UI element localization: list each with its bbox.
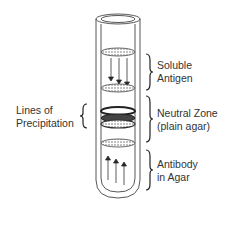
antibody-disc — [101, 139, 135, 147]
arrows-down-icon — [109, 58, 130, 86]
antigen-top-disc — [101, 48, 135, 56]
label-neutral-zone: Neutral Zone (plain agar) — [157, 107, 218, 133]
label-soluble-antigen: Soluble Antigen — [157, 59, 193, 85]
arrows-up-icon — [106, 156, 127, 185]
label-precipitation: Lines of Precipitation — [16, 104, 74, 130]
antigen-bottom-disc — [101, 84, 135, 92]
label-antibody: Antibody in Agar — [157, 158, 198, 184]
precipitation-lines — [101, 107, 135, 128]
